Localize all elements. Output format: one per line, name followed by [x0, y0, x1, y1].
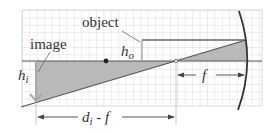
object-label: object — [82, 14, 119, 30]
center-point — [104, 59, 109, 64]
di-minus-f-label: di - f — [82, 109, 111, 127]
ray-diagram: object image ho hi f di - f — [0, 0, 273, 133]
image-label: image — [30, 36, 67, 52]
